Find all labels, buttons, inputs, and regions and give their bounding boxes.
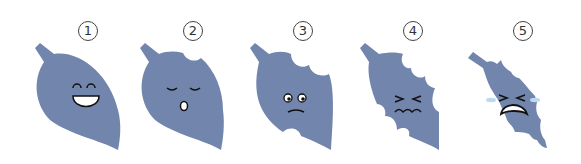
leaf-one-bite-icon [135, 40, 251, 164]
panel-5: 5 [465, 0, 581, 164]
leaf-heavily-eaten-icon [465, 40, 581, 164]
leaf-stages-diagram: 1 2 3 4 [0, 0, 581, 164]
leaf-many-bites-icon [355, 40, 471, 164]
panel-3: 3 [245, 0, 361, 164]
tear-right [530, 98, 540, 102]
step-number: 5 [465, 20, 581, 41]
leaf-whole-icon [30, 40, 146, 164]
leaf-two-bites-icon [245, 40, 361, 164]
panel-1: 1 [30, 0, 146, 164]
panel-4: 4 [355, 0, 471, 164]
step-number: 1 [30, 20, 146, 41]
step-number: 3 [245, 20, 361, 41]
tear-left [486, 98, 496, 102]
step-number: 4 [355, 20, 471, 41]
panel-2: 2 [135, 0, 251, 164]
step-number: 2 [135, 20, 251, 41]
